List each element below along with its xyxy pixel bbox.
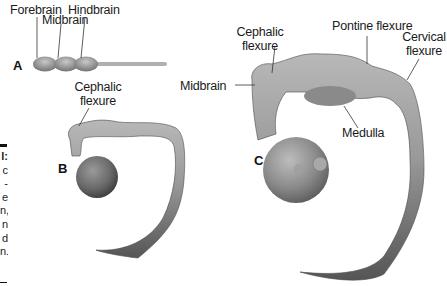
label-hindbrain: Hindbrain bbox=[68, 3, 120, 17]
label-line: flexure bbox=[401, 44, 447, 58]
caption-line: n, bbox=[0, 204, 8, 218]
caption-line: e bbox=[0, 191, 8, 205]
label-cephalic-flexure-b: Cephalic flexure bbox=[68, 80, 128, 108]
label-midbrain-c: Midbrain bbox=[180, 79, 226, 93]
label-medulla: Medulla bbox=[342, 126, 384, 140]
caption-line: l: bbox=[0, 150, 8, 164]
caption-rule-bottom bbox=[0, 282, 7, 283]
caption-rule-top bbox=[0, 144, 7, 147]
label-line: flexure bbox=[68, 94, 128, 108]
label-line: Cephalic bbox=[230, 25, 290, 39]
panel-letter-b: B bbox=[58, 161, 67, 176]
panel-b-embryo bbox=[68, 108, 184, 258]
label-cephalic-flexure-c: Cephalic flexure bbox=[230, 25, 290, 53]
embryo-brain-diagram bbox=[0, 0, 447, 286]
caption-line: c bbox=[0, 164, 8, 178]
caption-line: n bbox=[0, 218, 8, 232]
caption-line: n. bbox=[0, 245, 8, 259]
panel-letter-a: A bbox=[13, 58, 22, 73]
caption-line: - bbox=[0, 177, 8, 191]
label-line: Cephalic bbox=[68, 80, 128, 94]
label-cervical-flexure: Cervical flexure bbox=[401, 30, 447, 58]
label-line: Cervical bbox=[401, 30, 447, 44]
label-line: flexure bbox=[230, 39, 290, 53]
caption-fragments: l: c - e n, n d n. bbox=[0, 150, 8, 259]
panel-letter-c: C bbox=[254, 153, 263, 168]
caption-line: d bbox=[0, 232, 8, 246]
